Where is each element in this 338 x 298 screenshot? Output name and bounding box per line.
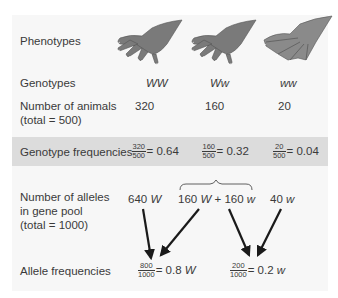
arrow-160W-to-W-freq [161,209,199,255]
arrow-160w-to-w-freq [229,209,249,255]
arrow-640W-to-W-freq [143,209,151,258]
arrows-layer [0,0,338,298]
arrow-40w-to-w-freq [258,209,281,255]
heterozygote-brace [180,180,252,190]
